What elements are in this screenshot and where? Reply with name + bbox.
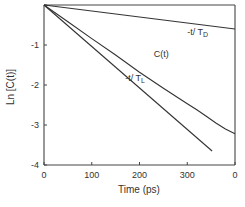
series-annotation: C(t) — [154, 49, 169, 59]
x-tick-label: 300 — [180, 170, 195, 180]
x-tick-label: 200 — [132, 170, 147, 180]
x-tick-label: 100 — [84, 170, 99, 180]
series-line-c-t — [44, 5, 235, 134]
x-tick-label: 0 — [41, 170, 46, 180]
series-annotation: -t/ TD — [187, 27, 208, 38]
y-tick-label: -4 — [31, 160, 39, 170]
y-tick-label: -2 — [31, 80, 39, 90]
y-axis-label: Ln [C(t)] — [5, 69, 16, 105]
chart: 01002003000-1-2-3-4 -t/ TDC(t)-t/ TL Tim… — [0, 0, 245, 207]
y-tick-label: -1 — [31, 40, 39, 50]
x-axis-label: Time (ps) — [118, 184, 160, 195]
series-annotations: -t/ TDC(t)-t/ TL — [125, 27, 208, 84]
y-tick-label: -3 — [31, 120, 39, 130]
series-annotation: -t/ TL — [125, 73, 145, 84]
plot-frame — [44, 5, 235, 165]
x-tick-label: 0 — [232, 170, 237, 180]
